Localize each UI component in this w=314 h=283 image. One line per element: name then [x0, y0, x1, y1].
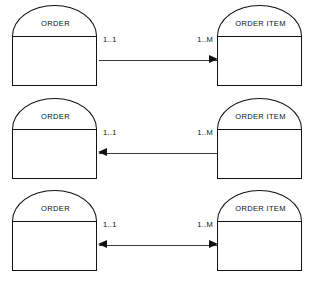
- relationship-line: [99, 245, 217, 246]
- relationship-row: ORDER 1..1 1..M ORDER ITEM: [0, 93, 314, 185]
- entity-attribute-area: [12, 221, 97, 271]
- er-diagram: ORDER 1..1 1..M ORDER ITEM ORDER 1..1 1.…: [0, 0, 314, 283]
- relationship-connector[interactable]: 1..1 1..M: [99, 5, 217, 88]
- cardinality-label-left: 1..1: [103, 128, 117, 137]
- entity-order[interactable]: ORDER: [12, 190, 99, 273]
- arrow-head-left-icon: [98, 240, 107, 248]
- entity-name-label: ORDER: [12, 112, 99, 121]
- entity-name-label: ORDER: [12, 19, 99, 28]
- cardinality-label-right: 1..M: [197, 220, 213, 229]
- entity-order-item[interactable]: ORDER ITEM: [217, 190, 304, 273]
- relationship-connector[interactable]: 1..1 1..M: [99, 98, 217, 181]
- cardinality-label-left: 1..1: [103, 220, 117, 229]
- entity-attribute-area: [217, 36, 302, 86]
- cardinality-label-right: 1..M: [197, 128, 213, 137]
- entity-name-label: ORDER: [12, 204, 99, 213]
- entity-attribute-area: [12, 36, 97, 86]
- entity-attribute-area: [12, 129, 97, 179]
- entity-order[interactable]: ORDER: [12, 98, 99, 181]
- entity-order[interactable]: ORDER: [12, 5, 99, 88]
- relationship-line: [99, 153, 217, 154]
- entity-name-label: ORDER ITEM: [217, 112, 304, 121]
- relationship-row: ORDER 1..1 1..M ORDER ITEM: [0, 0, 314, 92]
- entity-attribute-area: [217, 129, 302, 179]
- entity-attribute-area: [217, 221, 302, 271]
- cardinality-label-right: 1..M: [197, 35, 213, 44]
- relationship-row: ORDER 1..1 1..M ORDER ITEM: [0, 185, 314, 277]
- entity-name-label: ORDER ITEM: [217, 19, 304, 28]
- cardinality-label-left: 1..1: [103, 35, 117, 44]
- relationship-line: [99, 60, 217, 61]
- entity-order-item[interactable]: ORDER ITEM: [217, 5, 304, 88]
- entity-name-label: ORDER ITEM: [217, 204, 304, 213]
- arrow-head-left-icon: [98, 148, 107, 156]
- relationship-connector[interactable]: 1..1 1..M: [99, 190, 217, 273]
- entity-order-item[interactable]: ORDER ITEM: [217, 98, 304, 181]
